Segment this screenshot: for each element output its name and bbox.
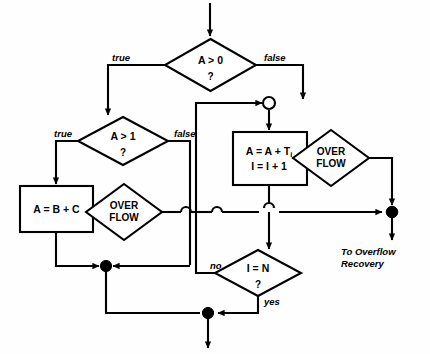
connector-a-gt-0-false bbox=[256, 65, 303, 99]
connector-overflow-right-down bbox=[369, 158, 392, 205]
process-a-equals-b-plus-c-label: A = B + C bbox=[33, 203, 80, 215]
decision-overflow-left-line1: OVER bbox=[110, 200, 139, 211]
edge-label-i-eq-n-yes: yes bbox=[263, 296, 280, 307]
decision-overflow-left[interactable]: OVER FLOW bbox=[86, 184, 162, 240]
decision-a-greater-than-1-label: A > 1 bbox=[111, 130, 136, 142]
connector-a-gt-1-false bbox=[168, 141, 190, 265]
decision-a-greater-than-1-qmark: ? bbox=[120, 147, 126, 158]
connector-abc-to-junction bbox=[56, 232, 99, 266]
merge-junction-bottom bbox=[202, 307, 213, 318]
process-a-equals-b-plus-c[interactable]: A = B + C bbox=[20, 186, 93, 232]
edge-label-a-gt-0-false: false bbox=[264, 52, 286, 63]
process-accumulate-line1-main: A = A + T bbox=[246, 145, 291, 157]
decision-i-equals-n-label: I = N bbox=[247, 262, 269, 274]
merge-junction-open bbox=[263, 97, 275, 109]
edge-label-i-eq-n-no: no bbox=[210, 260, 222, 271]
decision-overflow-right-line1: OVER bbox=[317, 146, 346, 157]
merge-junction-left bbox=[100, 260, 111, 271]
process-accumulate-line2: I = I + 1 bbox=[251, 160, 287, 172]
decision-overflow-right-line2: FLOW bbox=[316, 158, 346, 169]
decision-a-greater-than-0-qmark: ? bbox=[207, 71, 213, 82]
connector-a-gt-0-true bbox=[108, 65, 165, 115]
edge-label-a-gt-1-false: false bbox=[174, 128, 196, 139]
exit-label-overflow-recovery-line2: Recovery bbox=[341, 258, 384, 269]
exit-label-overflow-recovery-line1: To Overflow bbox=[341, 246, 396, 257]
flowchart-canvas: A > 0 ? A > 1 ? A = B + C OVER FLOW A = … bbox=[0, 0, 430, 354]
connector-a-gt-1-true bbox=[56, 141, 78, 184]
decision-a-greater-than-0[interactable]: A > 0 ? bbox=[165, 39, 256, 91]
connector-i-eq-n-no bbox=[196, 103, 228, 273]
connector-junction-to-bottom bbox=[106, 272, 200, 313]
decision-overflow-left-line2: FLOW bbox=[109, 212, 139, 223]
merge-junction-overflow bbox=[386, 206, 398, 218]
edge-label-a-gt-1-true: true bbox=[54, 128, 73, 139]
decision-i-equals-n[interactable]: I = N ? bbox=[215, 250, 301, 296]
decision-i-equals-n-qmark: ? bbox=[255, 279, 261, 290]
edge-label-a-gt-0-true: true bbox=[112, 52, 131, 63]
connector-accumulate-to-i-eq-n bbox=[264, 185, 274, 249]
connector-i-eq-n-yes bbox=[218, 296, 258, 313]
decision-a-greater-than-1[interactable]: A > 1 ? bbox=[78, 117, 168, 165]
decision-a-greater-than-0-label: A > 0 bbox=[198, 54, 223, 66]
